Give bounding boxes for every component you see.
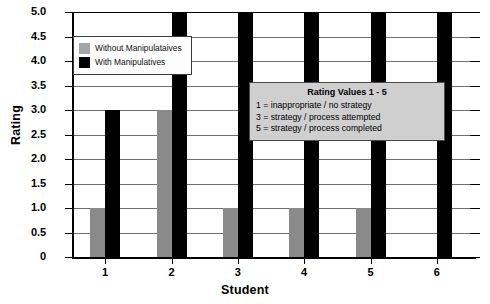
legend-label-with: With Manipulatives <box>95 57 165 68</box>
legend-item-without: Without Manipulataives <box>79 42 186 55</box>
y-tick-label: 0.5 <box>16 226 46 238</box>
x-axis-line <box>72 257 476 259</box>
y-tick-label: 2.5 <box>16 128 46 140</box>
y-tick-label: 4.5 <box>16 30 46 42</box>
bar-with-student-1 <box>105 110 120 257</box>
y-tick-mark <box>65 257 72 258</box>
x-axis-title: Student <box>0 283 490 297</box>
x-tick-label: 5 <box>351 266 391 278</box>
y-tick-label: 3.5 <box>16 79 46 91</box>
x-tick-label: 2 <box>152 266 192 278</box>
y-tick-label: 2.0 <box>16 152 46 164</box>
bar-chart: Rating 5.04.54.03.53.02.52.01.51.00.5012… <box>0 0 490 304</box>
y-tick-label: 3.0 <box>16 103 46 115</box>
rating-key-line-2: 3 = strategy / process attempted <box>256 112 438 124</box>
bar-without-student-1 <box>90 208 105 257</box>
x-tick-label: 4 <box>284 266 324 278</box>
legend-item-with: With Manipulatives <box>79 56 186 69</box>
y-tick-mark <box>65 37 72 38</box>
y-tick-mark-right <box>470 37 480 38</box>
x-tick-label: 1 <box>85 266 125 278</box>
y-tick-mark-right <box>470 233 480 234</box>
y-tick-mark <box>65 208 72 209</box>
chart-legend: Without Manipulataives With Manipulative… <box>73 36 192 75</box>
y-tick-mark <box>65 12 72 13</box>
y-tick-mark <box>65 86 72 87</box>
y-tick-mark-right <box>470 184 480 185</box>
x-tick-label: 3 <box>218 266 258 278</box>
rating-key-title: Rating Values 1 - 5 <box>256 87 438 98</box>
y-tick-mark <box>65 233 72 234</box>
y-tick-mark-right <box>470 110 480 111</box>
y-tick-label: 4.0 <box>16 54 46 66</box>
y-tick-mark-right <box>470 208 480 209</box>
y-tick-label: 0 <box>16 250 46 262</box>
rating-key-line-3: 5 = strategy / process completed <box>256 123 438 135</box>
bar-without-student-4 <box>289 208 304 257</box>
black-swatch-icon <box>79 57 90 68</box>
y-tick-mark-right <box>470 12 480 13</box>
gray-swatch-icon <box>79 43 90 54</box>
bar-without-student-2 <box>157 110 172 257</box>
y-tick-mark-right <box>470 86 480 87</box>
rating-key-line-1: 1 = inappropriate / no strategy <box>256 100 438 112</box>
y-tick-mark <box>65 110 72 111</box>
y-tick-mark-right <box>470 61 480 62</box>
y-tick-mark-right <box>470 159 480 160</box>
y-tick-label: 5.0 <box>16 5 46 17</box>
y-tick-label: 1.0 <box>16 201 46 213</box>
y-tick-label: 1.5 <box>16 177 46 189</box>
x-tick-label: 6 <box>417 266 457 278</box>
y-tick-mark <box>65 61 72 62</box>
rating-key-box: Rating Values 1 - 5 1 = inappropriate / … <box>249 82 445 141</box>
legend-label-without: Without Manipulataives <box>95 43 182 54</box>
bar-without-student-5 <box>356 208 371 257</box>
bar-without-student-3 <box>223 208 238 257</box>
y-tick-mark-right <box>470 135 480 136</box>
y-tick-mark <box>65 184 72 185</box>
y-tick-mark <box>65 159 72 160</box>
y-tick-mark <box>65 135 72 136</box>
